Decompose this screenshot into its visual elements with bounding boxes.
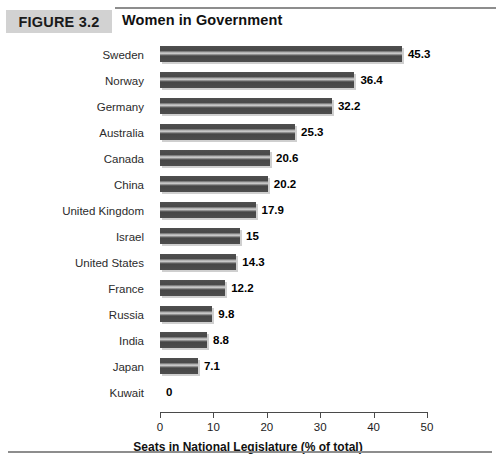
bar-value-label: 9.8 bbox=[218, 306, 234, 322]
figure-page: { "figure": { "badge_label": "FIGURE 3.2… bbox=[0, 0, 496, 466]
bar-value-label: 20.2 bbox=[274, 176, 296, 192]
country-label: United States bbox=[0, 250, 152, 276]
figure-title: Women in Government bbox=[122, 12, 282, 28]
figure-footer-rule bbox=[8, 451, 492, 453]
x-axis: Seats in National Legislature (% of tota… bbox=[0, 412, 496, 466]
bar-row: China20.2 bbox=[0, 172, 496, 198]
bar-row: Japan7.1 bbox=[0, 354, 496, 380]
bar-row: Germany32.2 bbox=[0, 94, 496, 120]
bar bbox=[160, 150, 270, 166]
bar-value-label: 12.2 bbox=[231, 280, 253, 296]
bar bbox=[160, 228, 240, 244]
bar-row: France12.2 bbox=[0, 276, 496, 302]
bar-row: Canada20.6 bbox=[0, 146, 496, 172]
bar-value-label: 17.9 bbox=[262, 202, 284, 218]
bar-value-label: 8.8 bbox=[213, 332, 229, 348]
x-axis-tick bbox=[160, 412, 161, 418]
country-label: Russia bbox=[0, 302, 152, 328]
bar-row: India8.8 bbox=[0, 328, 496, 354]
bar-value-label: 45.3 bbox=[408, 46, 430, 62]
bar bbox=[160, 306, 212, 322]
x-axis-tick bbox=[427, 412, 428, 418]
bar-row: Russia9.8 bbox=[0, 302, 496, 328]
country-label: United Kingdom bbox=[0, 198, 152, 224]
x-axis-line bbox=[160, 412, 427, 413]
x-axis-tick-label: 20 bbox=[252, 421, 282, 433]
country-label: Australia bbox=[0, 120, 152, 146]
country-label: France bbox=[0, 276, 152, 302]
bar-row: Sweden45.3 bbox=[0, 42, 496, 68]
country-label: Sweden bbox=[0, 42, 152, 68]
header-divider-rule bbox=[115, 7, 496, 9]
x-axis-tick bbox=[267, 412, 268, 418]
country-label: Kuwait bbox=[0, 380, 152, 406]
country-label: Israel bbox=[0, 224, 152, 250]
x-axis-tick bbox=[374, 412, 375, 418]
figure-header: FIGURE 3.2 Women in Government bbox=[0, 0, 496, 40]
bar-value-label: 7.1 bbox=[204, 358, 220, 374]
country-label: India bbox=[0, 328, 152, 354]
bar-value-label: 36.4 bbox=[360, 72, 382, 88]
bar-value-label: 15 bbox=[246, 228, 259, 244]
x-axis-tick bbox=[320, 412, 321, 418]
country-label: Japan bbox=[0, 354, 152, 380]
bar bbox=[160, 202, 256, 218]
x-axis-tick-label: 50 bbox=[412, 421, 442, 433]
bar bbox=[160, 124, 295, 140]
bar-chart-plot-area: Sweden45.3Norway36.4Germany32.2Australia… bbox=[0, 40, 496, 410]
x-axis-tick-label: 0 bbox=[145, 421, 175, 433]
bar bbox=[160, 280, 225, 296]
figure-number-badge: FIGURE 3.2 bbox=[6, 10, 112, 33]
bar-row: United States14.3 bbox=[0, 250, 496, 276]
x-axis-tick-label: 30 bbox=[305, 421, 335, 433]
country-label: Norway bbox=[0, 68, 152, 94]
bar bbox=[160, 72, 354, 88]
bar-value-label: 20.6 bbox=[276, 150, 298, 166]
bar-row: Kuwait0 bbox=[0, 380, 496, 406]
country-label: Canada bbox=[0, 146, 152, 172]
bar bbox=[160, 46, 402, 62]
bar bbox=[160, 98, 332, 114]
bar-value-label: 25.3 bbox=[301, 124, 323, 140]
bar-row: Norway36.4 bbox=[0, 68, 496, 94]
country-label: China bbox=[0, 172, 152, 198]
bar-value-label: 32.2 bbox=[338, 98, 360, 114]
bar bbox=[160, 176, 268, 192]
bar bbox=[160, 254, 236, 270]
figure-number-label: FIGURE 3.2 bbox=[19, 14, 100, 30]
bar-row: Israel15 bbox=[0, 224, 496, 250]
bar-value-label: 0 bbox=[166, 384, 172, 400]
bar bbox=[160, 332, 207, 348]
x-axis-tick-label: 10 bbox=[198, 421, 228, 433]
x-axis-tick bbox=[213, 412, 214, 418]
country-label: Germany bbox=[0, 94, 152, 120]
x-axis-tick-label: 40 bbox=[359, 421, 389, 433]
bar bbox=[160, 358, 198, 374]
bar-value-label: 14.3 bbox=[242, 254, 264, 270]
bar-row: United Kingdom17.9 bbox=[0, 198, 496, 224]
bar-row: Australia25.3 bbox=[0, 120, 496, 146]
